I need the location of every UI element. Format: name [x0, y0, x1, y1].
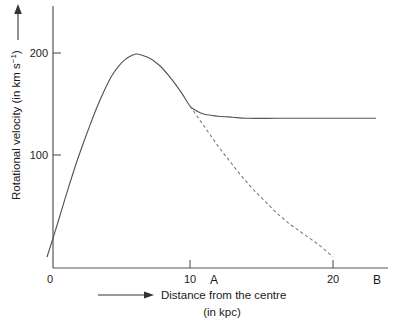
y-axis-direction-arrow — [14, 4, 22, 40]
y-tick-label-100: 100 — [30, 149, 48, 161]
y-axis-title: Rotational velocity (in km s−1) — [9, 50, 22, 200]
x-tick-label-10: 10 — [184, 273, 196, 285]
x-axis-title-line2: (in kpc) — [203, 306, 241, 318]
x-tick-label-0: 0 — [47, 273, 53, 285]
rotation-curve-chart: 200 100 0 10 20 A B Rotational velocity … — [0, 0, 399, 325]
y-tick-label-200: 200 — [30, 47, 48, 59]
chart-figure: 200 100 0 10 20 A B Rotational velocity … — [0, 0, 399, 325]
x-axis-direction-arrow — [98, 291, 154, 298]
x-tick-label-20: 20 — [327, 273, 339, 285]
y-axis-title-main: Rotational velocity (in km s — [10, 63, 22, 200]
y-axis-title-tail: ) — [10, 50, 22, 54]
region-label-a: A — [210, 273, 218, 287]
observed-rotation-curve — [47, 54, 376, 257]
region-label-b: B — [373, 273, 381, 287]
x-axis-title-line1: Distance from the centre — [161, 289, 286, 301]
keplerian-predicted-curve — [190, 106, 333, 257]
